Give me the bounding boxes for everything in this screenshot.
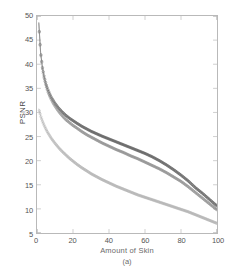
chart-canvas [37, 16, 217, 233]
figure-subcaption: (a) [36, 257, 218, 266]
x-tick-label: 0 [34, 236, 38, 245]
x-tick-label: 20 [68, 236, 76, 245]
figure-panel: 5101520253035404550 020406080100 PSNR Am… [0, 0, 241, 280]
x-axis-title: Amount of Skin [36, 246, 218, 255]
data-series [38, 109, 217, 225]
x-tick-label: 60 [141, 236, 149, 245]
y-tick-label: 50 [25, 11, 33, 20]
x-tick-label: 40 [105, 236, 113, 245]
x-tick-label: 80 [178, 236, 186, 245]
x-tick-label: 100 [212, 236, 224, 245]
y-axis-title: PSNR [18, 83, 27, 143]
y-tick-label: 10 [25, 205, 33, 214]
y-tick-label: 45 [25, 35, 33, 44]
y-tick-label: 15 [25, 181, 33, 190]
y-tick-label: 20 [25, 157, 33, 166]
data-series [38, 22, 217, 207]
y-tick-label: 5 [29, 230, 33, 239]
tick-marks [37, 16, 217, 233]
series-layer [38, 22, 217, 224]
y-tick-label: 40 [25, 59, 33, 68]
plot-area [36, 15, 218, 234]
